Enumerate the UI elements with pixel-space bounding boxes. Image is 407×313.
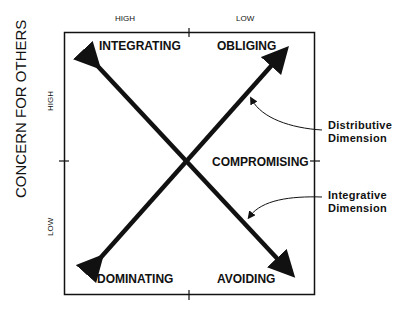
top-low-label: LOW [236,14,254,23]
diagram-graphics [0,0,407,313]
style-avoiding: AVOIDING [217,272,275,286]
distributive-callout [252,100,322,130]
left-high-label: HIGH [46,91,55,111]
left-low-label: LOW [46,218,55,236]
style-compromising: COMPROMISING [212,155,309,169]
top-high-label: HIGH [115,14,135,23]
integrative-dimension-label: Integrative Dimension [328,189,387,215]
distributive-dimension-label: Distributive Dimension [328,119,392,145]
integrative-callout [250,197,322,216]
style-dominating: DOMINATING [97,272,173,286]
style-integrating: INTEGRATING [99,39,181,53]
left-axis-title: CONCERN FOR OTHERS [12,20,29,198]
style-obliging: OBLIGING [217,39,276,53]
